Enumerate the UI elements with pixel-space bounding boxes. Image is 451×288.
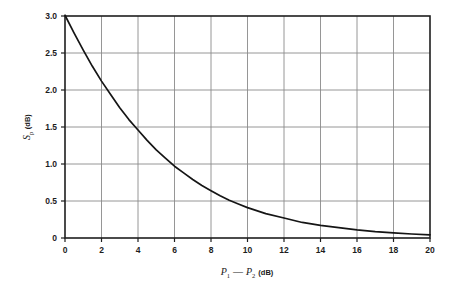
y-axis-tick-labels: 00.51.01.52.02.53.0 [45,11,57,243]
x-axis-title-subscript-2: 2 [252,272,255,279]
figure-container: 02468101214161820 00.51.01.52.02.53.0 Sp… [0,0,451,288]
y-tick-label: 1.5 [45,122,57,132]
x-tick-label: 16 [352,245,362,255]
x-axis-title: P1—P2(dB) [220,266,274,279]
y-tick-label: 2.0 [45,85,57,95]
x-tick-label: 2 [99,245,104,255]
x-tick-label: 4 [136,245,141,255]
x-tick-label: 18 [389,245,399,255]
x-tick-label: 14 [316,245,326,255]
x-axis-tick-labels: 02468101214161820 [63,245,435,255]
x-axis-title-symbol-2: P [245,266,252,277]
x-tick-label: 10 [243,245,253,255]
y-tick-label: 0 [52,233,57,243]
svg-text:Sp(dB): Sp(dB) [21,114,34,140]
y-axis-title-subscript: p [27,132,34,135]
x-tick-label: 8 [209,245,214,255]
x-axis-title-unit: (dB) [258,268,273,277]
x-axis-title-minus: — [232,266,244,277]
y-axis-title-unit: (dB) [23,114,32,129]
x-tick-label: 20 [425,245,435,255]
x-tick-label: 6 [172,245,177,255]
y-tick-label: 3.0 [45,11,57,21]
x-axis-title-subscript-1: 1 [227,272,230,279]
y-tick-label: 0.5 [45,196,57,206]
x-axis-title-symbol-1: P [220,266,227,277]
y-tick-label: 1.0 [45,159,57,169]
svg-text:P1—P2(dB): P1—P2(dB) [220,266,274,279]
x-tick-label: 12 [279,245,289,255]
y-axis-title: Sp(dB) [21,114,34,140]
chart-svg: 02468101214161820 00.51.01.52.02.53.0 Sp… [0,0,451,288]
y-tick-label: 2.5 [45,48,57,58]
x-tick-label: 0 [63,245,68,255]
